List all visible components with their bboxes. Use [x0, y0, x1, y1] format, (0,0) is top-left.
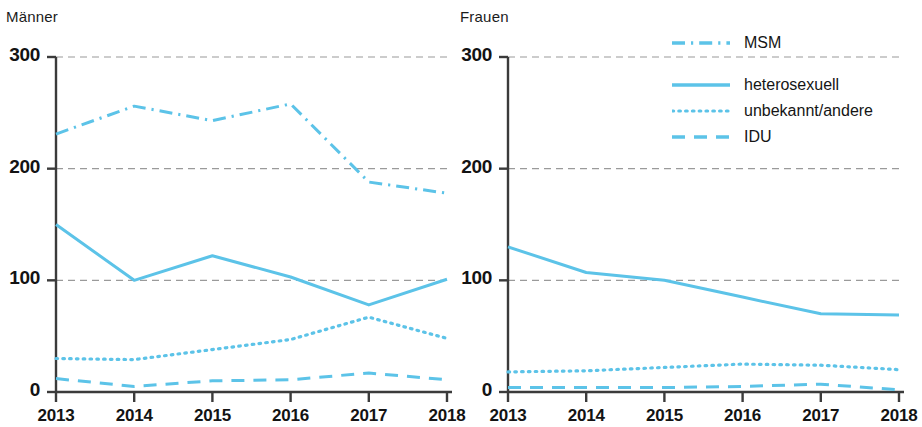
- y-axis-tick-label: 100: [0, 267, 40, 289]
- y-axis-tick-label: 200: [452, 156, 492, 178]
- y-axis-tick-label: 300: [0, 44, 40, 66]
- chart-panel-maenner: Männer 010020030020132014201520162017201…: [0, 0, 452, 427]
- x-axis-tick-label: 2017: [781, 406, 861, 426]
- plot-area-frauen: [452, 0, 904, 427]
- x-axis-tick-label: 2013: [468, 406, 548, 426]
- series-line-unbekannt-andere: [508, 364, 899, 372]
- x-axis-tick-label: 2018: [859, 406, 922, 426]
- legend-swatch-dashdot-icon: [672, 35, 730, 51]
- legend-swatch-dotted-icon: [672, 103, 730, 119]
- series-line-unbekannt-andere: [56, 317, 447, 359]
- x-axis-tick-label: 2016: [703, 406, 783, 426]
- chart-panel-frauen: Frauen 010020030020132014201520162017201…: [452, 0, 904, 427]
- plot-area-maenner: [0, 0, 452, 427]
- series-line-idu: [508, 384, 899, 390]
- legend-label: MSM: [744, 34, 781, 52]
- legend-item-unbekannt-andere: unbekannt/andere: [672, 100, 873, 122]
- x-axis-tick-label: 2017: [329, 406, 409, 426]
- y-axis-tick-label: 100: [452, 267, 492, 289]
- legend-item-heterosexuell: heterosexuell: [672, 74, 839, 96]
- series-line-idu: [56, 373, 447, 386]
- legend-item-msm: MSM: [672, 32, 781, 54]
- y-axis-tick-label: 200: [0, 156, 40, 178]
- x-axis-tick-label: 2016: [251, 406, 331, 426]
- series-line-heterosexuell: [56, 225, 447, 305]
- x-axis-tick-label: 2015: [624, 406, 704, 426]
- x-axis-tick-label: 2015: [172, 406, 252, 426]
- legend-label: unbekannt/andere: [744, 102, 873, 120]
- x-axis-tick-label: 2013: [16, 406, 96, 426]
- legend-swatch-dashed-icon: [672, 129, 730, 145]
- x-axis-tick-label: 2014: [94, 406, 174, 426]
- legend-label: heterosexuell: [744, 76, 839, 94]
- series-line-heterosexuell: [508, 247, 899, 315]
- legend-label: IDU: [744, 128, 772, 146]
- y-axis-tick-label: 0: [452, 379, 492, 401]
- legend-swatch-solid-icon: [672, 77, 730, 93]
- series-line-msm: [56, 104, 447, 193]
- legend-item-idu: IDU: [672, 126, 772, 148]
- y-axis-tick-label: 300: [452, 44, 492, 66]
- y-axis-tick-label: 0: [0, 379, 40, 401]
- x-axis-tick-label: 2014: [546, 406, 626, 426]
